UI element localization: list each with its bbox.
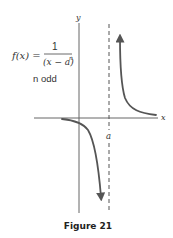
formula-exponent: n xyxy=(69,54,73,61)
x-axis-label: x xyxy=(161,113,166,122)
figure-caption: Figure 21 xyxy=(64,221,112,231)
formula: f(x) = 1 (x − a) n n odd xyxy=(11,41,74,84)
asymptote-label: a xyxy=(106,131,111,141)
figure-21-graph: f(x) = 1 (x − a) n n odd x y a Figure 21 xyxy=(0,0,173,238)
formula-condition: n odd xyxy=(33,73,57,84)
right-branch-curve xyxy=(120,38,156,115)
formula-numerator: 1 xyxy=(52,41,58,52)
y-axis-label: y xyxy=(75,13,81,22)
left-branch-curve xyxy=(62,119,101,197)
formula-lhs: f(x) = xyxy=(11,50,41,61)
